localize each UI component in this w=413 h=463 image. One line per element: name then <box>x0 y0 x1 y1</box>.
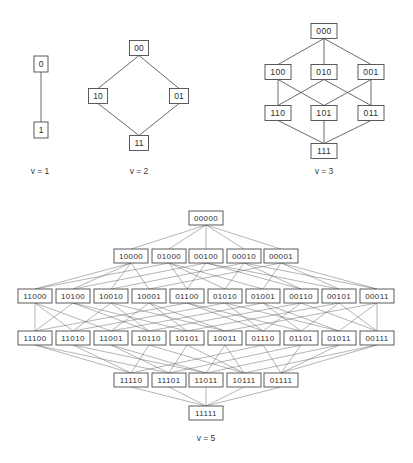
lattice-edge <box>281 263 377 289</box>
lattice-node[interactable]: 11010 <box>56 331 90 345</box>
lattice-node-label: 10110 <box>137 334 161 343</box>
lattice-node[interactable]: 000 <box>311 24 337 39</box>
lattice-node[interactable]: 10111 <box>227 373 261 387</box>
lattice-node-label: 000 <box>316 26 331 36</box>
lattice-node[interactable]: 01000 <box>152 249 186 263</box>
lattice-node-label: 011 <box>364 108 379 118</box>
lattice-node[interactable]: 11 <box>130 136 149 151</box>
lattice-node-label: 00001 <box>269 252 293 261</box>
lattice-node[interactable]: 00 <box>130 41 149 56</box>
lattice-canvas: 0100100111000100010001110101011111000001… <box>0 0 413 463</box>
lattice-node[interactable]: 11111 <box>189 406 223 420</box>
lattice-node[interactable]: 01101 <box>284 331 318 345</box>
lattice-node[interactable]: 10100 <box>56 289 90 303</box>
lattice-edge <box>244 263 301 289</box>
lattice-edge <box>169 387 206 406</box>
lattice-node[interactable]: 01011 <box>322 331 356 345</box>
lattice-node[interactable]: 11110 <box>114 373 148 387</box>
lattice-edge <box>278 121 324 144</box>
lattice-edge <box>35 303 111 331</box>
lattice-node[interactable]: 1 <box>34 122 48 138</box>
lattice-edge <box>244 345 377 373</box>
lattice-node[interactable]: 111 <box>311 144 337 159</box>
lattice-node[interactable]: 100 <box>265 65 291 80</box>
lattice-node-label: 11 <box>135 138 144 148</box>
lattice-edge <box>131 387 206 406</box>
lattice-node[interactable]: 00010 <box>227 249 261 263</box>
lattice-node[interactable]: 011 <box>358 106 384 121</box>
lattice-node-label: 01000 <box>157 252 181 261</box>
lattice-edge <box>111 263 131 289</box>
lattice-edge <box>281 263 339 289</box>
lattice-edge <box>139 56 179 89</box>
lattice-node[interactable]: 10011 <box>208 331 242 345</box>
lattice-edge <box>73 303 111 331</box>
lattice-node-label: 10 <box>93 91 103 101</box>
lattice-edge <box>281 345 301 373</box>
lattice-edge <box>206 345 225 373</box>
lattice-edge <box>301 303 377 331</box>
lattice-node[interactable]: 01 <box>170 89 189 104</box>
lattice-node-label: 01011 <box>327 334 351 343</box>
lattice-node-label: 1 <box>39 125 44 135</box>
lattice-node-label: 11111 <box>195 409 217 418</box>
lattice-node-label: 11110 <box>120 376 143 385</box>
lattice-node[interactable]: 11100 <box>18 331 52 345</box>
lattice-node-label: 10101 <box>175 334 199 343</box>
lattice-node-label: 01 <box>174 91 184 101</box>
lattice-node-label: 00111 <box>365 334 388 343</box>
lattice-node[interactable]: 010 <box>311 65 337 80</box>
lattice-node-label: 010 <box>316 67 331 77</box>
lattice-node[interactable]: 10 <box>89 89 108 104</box>
lattice-node[interactable]: 01010 <box>208 289 242 303</box>
lattice-node[interactable]: 10101 <box>170 331 204 345</box>
lattice-edge <box>131 225 206 249</box>
lattice-node[interactable]: 01100 <box>170 289 204 303</box>
lattice-node[interactable]: 11011 <box>189 373 223 387</box>
lattice-node[interactable]: 10001 <box>132 289 166 303</box>
lattice-node[interactable]: 00110 <box>284 289 318 303</box>
lattice-node[interactable]: 01001 <box>246 289 280 303</box>
lattice-edge <box>35 263 131 289</box>
lattice-node-label: 11001 <box>99 334 123 343</box>
lattice-edge <box>111 303 263 331</box>
lattice-edge <box>131 345 263 373</box>
lattice-node[interactable]: 00100 <box>189 249 223 263</box>
lattice-node[interactable]: 00000 <box>189 211 223 225</box>
lattice-node[interactable]: 10010 <box>94 289 128 303</box>
lattice-node[interactable]: 01111 <box>264 373 298 387</box>
lattice-node[interactable]: 00001 <box>264 249 298 263</box>
lattice-node-label: 11000 <box>23 292 47 301</box>
lattice-edge <box>187 303 339 331</box>
lattice-edge <box>206 387 281 406</box>
lattice-node-label: 00000 <box>194 214 218 223</box>
lattice-edge <box>98 56 139 89</box>
lattice-node[interactable]: 110 <box>265 106 291 121</box>
diagram-caption-v5: v = 5 <box>197 433 216 443</box>
lattice-edge <box>73 345 131 373</box>
lattice-node[interactable]: 001 <box>358 65 384 80</box>
lattice-edge <box>206 387 244 406</box>
lattice-node[interactable]: 10000 <box>114 249 148 263</box>
lattice-node-label: 111 <box>317 146 331 156</box>
lattice-node[interactable]: 0 <box>34 56 48 72</box>
lattice-node[interactable]: 11000 <box>18 289 52 303</box>
lattice-edge <box>263 263 281 289</box>
diagram-caption-v2: v = 2 <box>130 166 149 176</box>
lattice-node-label: 10011 <box>213 334 237 343</box>
lattice-edge <box>281 345 377 373</box>
lattice-node-label: 01010 <box>213 292 237 301</box>
lattice-node[interactable]: 101 <box>311 106 337 121</box>
lattice-node[interactable]: 01110 <box>246 331 280 345</box>
lattice-node[interactable]: 00101 <box>322 289 356 303</box>
lattice-node-label: 00 <box>134 43 144 53</box>
lattice-node[interactable]: 11001 <box>94 331 128 345</box>
lattice-node[interactable]: 00111 <box>360 331 394 345</box>
lattice-node[interactable]: 11101 <box>152 373 186 387</box>
lattice-edge <box>169 225 206 249</box>
lattice-edge <box>278 39 324 65</box>
lattice-node-label: 01100 <box>175 292 199 301</box>
lattice-node[interactable]: 00011 <box>360 289 394 303</box>
lattice-node[interactable]: 10110 <box>132 331 166 345</box>
lattice-edge <box>35 263 169 289</box>
